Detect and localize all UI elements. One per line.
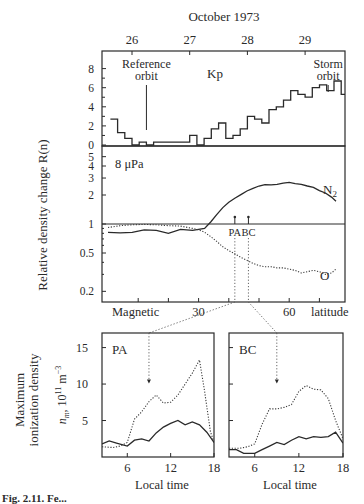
ytick-15: 15 [76, 341, 88, 355]
density-ytick-0.2: 0.2 [80, 285, 95, 297]
kp-ytick-8: 8 [88, 63, 94, 75]
bc-group-arrow-head [275, 380, 279, 384]
marker-bc-label: BC [241, 227, 255, 238]
xtick-18: 18 [208, 461, 221, 475]
xtick-12: 12 [164, 461, 177, 475]
xtick-12: 12 [293, 461, 306, 475]
relative-density-ylabel: Relative density change R(n) [35, 139, 50, 290]
pressure-level-label: 8 μPa [115, 157, 144, 171]
pa-group-reference-curve [102, 421, 214, 447]
bc-group-reference-curve [229, 432, 343, 453]
density-ytick-0.5: 0.5 [80, 247, 95, 259]
latitude-label-left: Magnetic [112, 305, 160, 319]
kp-annotations: ReferenceorbitStormorbit [122, 57, 343, 130]
pa-group-title: PA [112, 342, 128, 357]
n2-label: N2 [323, 182, 337, 199]
date-tick-26: 26 [126, 33, 139, 47]
xtick-6: 6 [252, 461, 258, 475]
panel-connectors [149, 302, 277, 333]
pa-bc-markers: PABC [229, 216, 256, 302]
density-ytick-5: 5 [88, 151, 94, 163]
date-axis-title: October 1973 [188, 9, 259, 24]
kp-ytick-2: 2 [88, 120, 94, 132]
xtick-18: 18 [337, 461, 350, 475]
pa-panel: PA5101561218Local time [76, 333, 220, 492]
ytick-5: 5 [82, 414, 88, 428]
bc-group-storm-curve [229, 386, 343, 449]
pa-group-xlabel: Local time [135, 478, 189, 492]
o-density-curve [108, 224, 336, 274]
date-tick-28: 28 [241, 33, 254, 47]
bc-group-xlabel: Local time [263, 478, 317, 492]
pa-group-arrow-head [147, 380, 151, 384]
kp-ytick-0: 0 [88, 139, 94, 151]
xtick-6: 6 [124, 461, 130, 475]
figure-caption: Fig. 2.11. Fe... [2, 492, 67, 504]
latitude-tick-60: 60 [283, 305, 296, 319]
ionization-ylabel-line2: ionization density [26, 353, 41, 446]
kp-ytick-6: 6 [88, 82, 94, 94]
ionization-ylabel-line1: Maximum [12, 373, 27, 427]
marker-pa-dot [234, 216, 237, 219]
date-tick-27: 27 [183, 33, 196, 47]
ionization-units-label: nm, 1011 m−3 [54, 366, 71, 424]
density-panel: 8 μPa 0.20.512345 3060Magneticlatitude P… [80, 146, 349, 319]
density-ytick-1: 1 [88, 218, 94, 230]
marker-bc-dot [247, 216, 250, 219]
latitude-label-right: latitude [311, 305, 349, 319]
annotation-line2: orbit [135, 69, 158, 83]
date-tick-29: 29 [299, 33, 312, 47]
kp-step-series [110, 81, 345, 145]
ytick-10: 10 [76, 377, 88, 391]
bc-group-title: BC [239, 342, 256, 357]
date-tick-labels: 26272829 [126, 33, 312, 55]
latitude-tick-30: 30 [192, 305, 205, 319]
o-label: O [320, 268, 329, 283]
bc-connector [248, 302, 276, 333]
density-ytick-2: 2 [88, 189, 94, 201]
n2-density-curve [108, 182, 336, 233]
bc-panel: BC61218Local time [229, 333, 349, 492]
pa-group-storm-curve [102, 360, 214, 448]
density-ytick-3: 3 [88, 172, 94, 184]
figure-canvas: October 1973 26272829 Kp 02468 Reference… [0, 0, 364, 504]
density-series-labels: N2O [320, 182, 337, 283]
kp-ytick-4: 4 [88, 101, 94, 113]
latitude-x-axis: 3060Magneticlatitude [112, 298, 349, 319]
marker-pa-label: PA [229, 227, 242, 238]
kp-title: Kp [207, 66, 223, 81]
kp-panel: Kp 02468 ReferenceorbitStormorbit [88, 51, 345, 151]
kp-y-axis: 02468 [88, 63, 106, 151]
